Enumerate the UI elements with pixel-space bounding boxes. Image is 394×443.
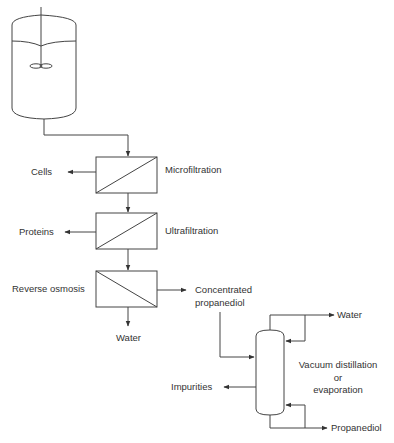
microfiltration-label: Microfiltration bbox=[165, 164, 222, 176]
propanediol-product-label: Propanediol bbox=[331, 422, 382, 434]
microfiltration-unit bbox=[96, 157, 157, 193]
column-label-line1: Vacuum distillation bbox=[290, 359, 386, 371]
impurities-label: Impurities bbox=[171, 381, 212, 393]
concentrated-label: Concentrated bbox=[195, 284, 252, 296]
propanediol-concentrate-label: propanediol bbox=[195, 297, 245, 309]
distillation-column bbox=[256, 330, 284, 415]
ultrafiltration-unit bbox=[96, 213, 157, 249]
water-ro-label: Water bbox=[116, 332, 141, 344]
column-label-line3: evaporation bbox=[290, 384, 386, 396]
ultrafiltration-label: Ultrafiltration bbox=[165, 225, 218, 237]
cells-label: Cells bbox=[31, 166, 52, 178]
column-label-line2: or bbox=[290, 372, 386, 384]
proteins-label: Proteins bbox=[19, 226, 54, 238]
reverse-osmosis-label: Reverse osmosis bbox=[12, 283, 85, 295]
reverse-osmosis-unit bbox=[96, 271, 157, 307]
fermenter-tank bbox=[12, 7, 76, 119]
water-column-label: Water bbox=[337, 309, 362, 321]
